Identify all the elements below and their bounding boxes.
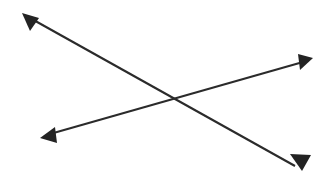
crossed-arrows-diagram — [0, 0, 324, 175]
figure-canvas — [0, 0, 324, 175]
diagram-background — [0, 0, 324, 175]
